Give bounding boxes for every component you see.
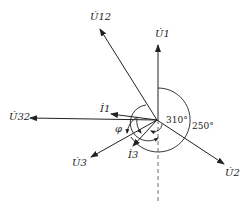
phasor-u32: [30, 118, 157, 120]
label-u3: U̇3: [72, 158, 87, 168]
label-angle-310: 310°: [166, 116, 188, 125]
label-angle-250: 250°: [192, 122, 214, 131]
phasor-u2: [157, 120, 224, 164]
label-i3: İ3: [128, 150, 138, 160]
label-u12: U̇12: [90, 12, 111, 22]
label-angle-phi: φ: [115, 124, 122, 134]
phasor-u3: [91, 120, 157, 157]
label-u32: U̇32: [9, 112, 30, 122]
label-u1: U̇1: [155, 29, 170, 39]
label-u2: U̇2: [225, 168, 240, 178]
label-i1: İ1: [100, 104, 110, 114]
phasor-diagram: [0, 0, 250, 209]
